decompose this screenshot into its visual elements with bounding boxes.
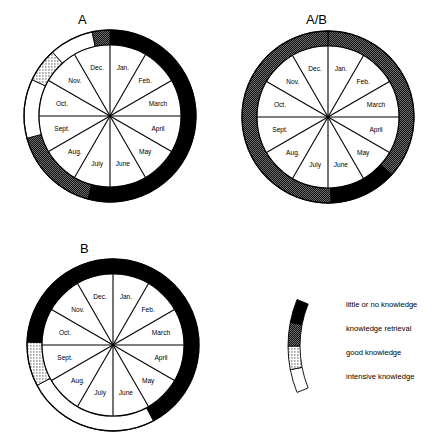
month-label: Dec. [308, 65, 322, 72]
month-label: May [357, 149, 370, 157]
month-label: June [334, 161, 349, 168]
month-label: March [367, 101, 386, 108]
month-label: Oct. [274, 101, 286, 108]
month-label: Nov. [71, 306, 84, 313]
month-label: July [91, 160, 103, 168]
month-label: Jan. [335, 65, 348, 72]
month-label: April [369, 126, 383, 134]
month-label: Sept. [57, 354, 73, 362]
month-label: March [152, 329, 171, 336]
month-label: Feb. [357, 78, 370, 85]
month-label: Nov. [286, 78, 299, 85]
ring-segment [92, 30, 110, 47]
month-label: Nov. [68, 77, 81, 84]
month-label: Jan. [117, 64, 130, 71]
month-label: Dec. [93, 293, 107, 300]
month-label: July [94, 389, 106, 397]
panel-title: A [78, 12, 87, 27]
month-label: Oct. [56, 100, 68, 107]
month-label: April [154, 354, 168, 362]
month-label: July [309, 161, 321, 169]
panel-title: A/B [306, 12, 327, 27]
legend-item-label: good knowledge [346, 348, 401, 357]
month-label: Feb. [142, 306, 155, 313]
month-label: Sept. [54, 125, 70, 133]
month-label: Feb. [139, 77, 152, 84]
month-label: Sept. [272, 126, 288, 134]
legend-item-label: little or no knowledge [346, 300, 417, 309]
month-label: June [116, 160, 131, 167]
month-label: May [142, 377, 155, 385]
month-label: Aug. [68, 148, 82, 156]
knowledge-calendar-figure: AJan.Feb.MarchAprilMayJuneJulyAug.Sept.O… [0, 0, 441, 447]
panel-title: B [80, 241, 89, 256]
month-label: Jan. [120, 293, 133, 300]
month-label: May [139, 148, 152, 156]
legend-swatch-segment [288, 346, 302, 370]
month-label: Aug. [71, 377, 85, 385]
month-label: Aug. [286, 149, 300, 157]
month-label: April [151, 125, 165, 133]
legend-item-label: intensive knowledge [346, 372, 414, 381]
legend-item-label: knowledge retrieval [346, 324, 412, 333]
month-label: Oct. [59, 329, 71, 336]
month-label: June [119, 389, 134, 396]
legend-swatch-segment [288, 322, 302, 346]
month-label: Dec. [90, 64, 104, 71]
month-label: March [149, 100, 168, 107]
